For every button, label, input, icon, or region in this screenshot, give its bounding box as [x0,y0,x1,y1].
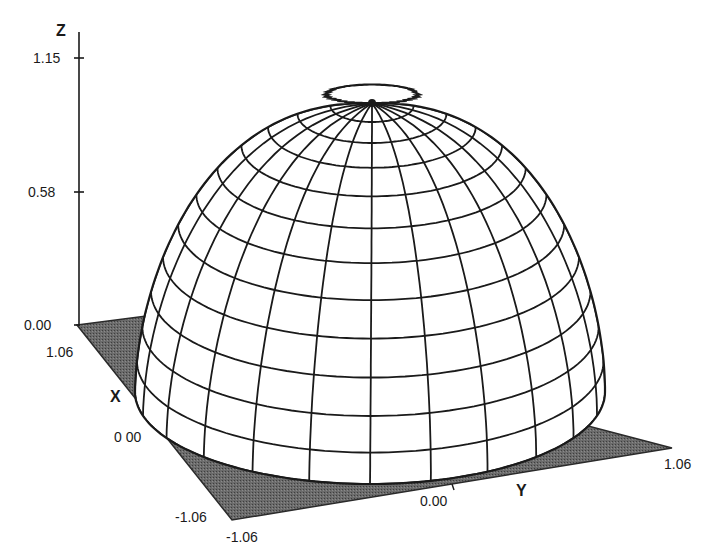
z-tick-1-15: 1.15 [33,50,60,66]
z-tick-0-00: 0.00 [24,317,51,333]
surface-plot: Z 1.15 0.58 0.00 1.06 X 0 00 -1.06 -1.06… [0,0,724,560]
dome-surface [135,85,605,485]
z-axis-label: Z [56,22,66,39]
x-tick-neg: -1.06 [175,509,207,525]
y-tick-zero: 0.00 [420,493,447,509]
z-tick-0-58: 0.58 [28,184,55,200]
x-tick-pos: 1.06 [46,344,73,360]
x-tick-zero: 0 00 [114,429,141,445]
y-tick-neg: -1.06 [226,529,258,545]
apex-point [368,99,376,107]
z-axis [74,32,84,325]
x-axis-label: X [110,388,121,405]
y-tick-pos: 1.06 [664,456,691,472]
y-axis-label: Y [516,482,527,499]
